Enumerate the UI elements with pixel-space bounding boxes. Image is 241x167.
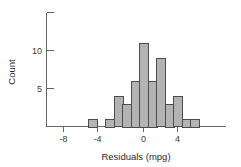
x-axis-title: Residuals (mpg) <box>101 151 170 162</box>
x-tick-label-neg4: -4 <box>93 134 101 144</box>
y-axis-title: Count <box>6 59 17 85</box>
y-tick-label-5: 5 <box>37 84 42 94</box>
histogram-bar <box>140 44 149 128</box>
histogram-figure: 10 5 Count -8 -4 0 4 Residuals (mpg) <box>0 0 241 167</box>
histogram-bar <box>123 105 132 128</box>
histogram-bar <box>174 97 183 127</box>
x-tick-label-neg8: -8 <box>59 134 67 144</box>
histogram-bars <box>89 44 200 128</box>
x-tick-label-0: 0 <box>141 134 146 144</box>
x-tick-label-4: 4 <box>175 134 180 144</box>
histogram-svg: 10 5 Count -8 -4 0 4 Residuals (mpg) <box>0 0 241 167</box>
histogram-bar <box>89 120 98 128</box>
histogram-bar <box>157 59 166 127</box>
histogram-bar <box>191 120 200 128</box>
histogram-bar <box>106 120 115 128</box>
y-tick-label-10: 10 <box>32 46 42 56</box>
